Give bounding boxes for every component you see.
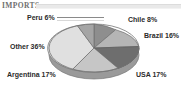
- imports-pie-chart-figure: IMPORTS: [0, 0, 185, 88]
- slice-label-brazil: Brazil 16%: [144, 32, 179, 40]
- page-title: IMPORTS: [2, 1, 40, 10]
- pie-graphic: [46, 14, 142, 82]
- slice-label-usa: USA 17%: [136, 71, 166, 79]
- slice-label-other: Other 36%: [10, 43, 45, 51]
- chart-canvas: Peru 6% Chile 8% Brazil 16% USA 17% Arge…: [0, 11, 185, 88]
- pie-svg: [46, 14, 142, 82]
- slice-label-argentina: Argentina 17%: [7, 71, 56, 79]
- slice-label-chile: Chile 8%: [128, 16, 157, 24]
- title-divider: [36, 4, 181, 9]
- figure-header: IMPORTS: [0, 0, 185, 11]
- slice-label-peru: Peru 6%: [27, 14, 55, 22]
- peru-leader-line: [57, 17, 104, 21]
